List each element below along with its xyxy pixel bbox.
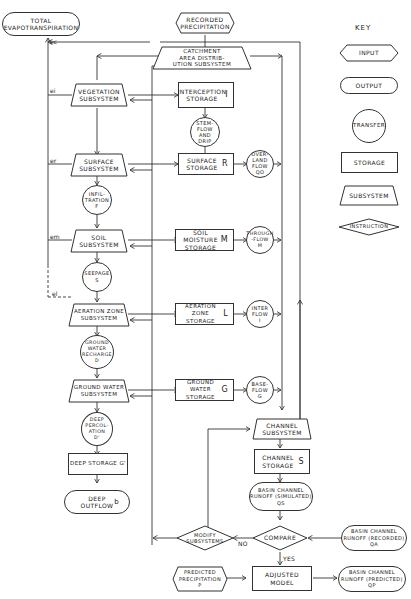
edge-label-no: NO — [238, 540, 248, 547]
transfer-interflow: INTER FLOW i — [246, 300, 274, 328]
input-recorded-precipitation: RECORDED PRECIPITATION — [175, 12, 235, 34]
edge-label-yes: YES — [283, 555, 295, 562]
transfer-baseflow: BASE- FLOW g — [246, 376, 274, 404]
output-deep-outflow: DEEP OUTFLOW b — [64, 490, 130, 514]
storage-surface: SURFACE STORAGE R — [178, 153, 234, 175]
output-total-evapotranspiration: TOTAL EVAPOTRANSPIRATION — [2, 12, 80, 36]
subsystem-aeration-zone: AERATION ZONE SUBSYSTEM — [68, 303, 130, 327]
legend-title: KEY — [355, 24, 371, 32]
subsystem-channel: CHANNEL SUBSYSTEM — [252, 418, 312, 440]
output-basin-runoff-predicted: BASIN CHANNEL RUNOFF (PREDICTED) qp — [338, 566, 406, 592]
hydrological-systems-diagram: TOTAL EVAPOTRANSPIRATION ec ei er em el … — [0, 0, 411, 599]
storage-channel: CHANNEL STORAGE S — [254, 449, 310, 474]
transfer-infiltration: INFIL- TRATION f — [82, 185, 112, 215]
transfer-throughflow: THROUGH -FLOW m — [246, 226, 274, 254]
subsystem-catchment-area-distribution: CATCHMENT AREA DISTRIB- UTION SUBSYSTEM — [152, 46, 252, 70]
edge-label-el: el — [52, 290, 57, 297]
output-basin-runoff-recorded: BASIN CHANNEL RUNOFF (RECORDED) qa — [341, 525, 407, 551]
storage-ground-water: GROUND WATER STORAGE G — [175, 379, 234, 401]
storage-deep: DEEP STORAGE G' — [68, 453, 128, 475]
legend-output: OUTPUT — [340, 77, 398, 94]
instruction-modify-subsystems: MODIFY SUBSYSTEMS — [176, 525, 234, 551]
transfer-stemflow-and-drip: STEM- FLOW AND DRIP — [190, 117, 220, 147]
subsystem-soil: SOIL SUBSYSTEM — [70, 229, 128, 253]
transfer-seepage: SEEPAGE s — [82, 262, 112, 292]
transfer-ground-water-recharge: GROUND WATER RECHARGE d — [80, 335, 114, 369]
subsystem-surface: SURFACE SUBSYSTEM — [70, 153, 128, 177]
instruction-compare: COMPARE — [252, 525, 308, 551]
edge-label-em: em — [50, 233, 60, 240]
legend-instruction: INSTRUCTION — [338, 218, 400, 236]
subsystem-ground-water: GROUND WATER SUBSYSTEM — [68, 379, 130, 403]
storage-aeration-zone: AERATION ZONE STORAGE L — [175, 303, 234, 325]
storage-interception: INTERCEPTION STORAGE I — [178, 82, 234, 108]
transfer-overland-flow: OVER- LAND FLOW qo — [246, 150, 274, 178]
subsystem-vegetation: VEGETATION SUBSYSTEM — [70, 83, 128, 107]
legend-storage: STORAGE — [341, 152, 398, 173]
legend-input: INPUT — [339, 44, 399, 62]
edge-label-ei: ei — [50, 87, 55, 94]
storage-adjusted-model: ADJUSTED MODEL — [252, 566, 312, 591]
output-basin-runoff-simulated: BASIN CHANNEL RUNOFF (SIMULATED) qs — [249, 482, 313, 511]
edge-label-er: er — [50, 157, 56, 164]
input-predicted-precipitation: PREDICTED PRECIPITATION P — [172, 566, 228, 592]
legend-transfer: TRANSFER — [352, 109, 386, 143]
legend-subsystem: SUBSYSTEM — [339, 185, 399, 206]
storage-soil-moisture: SOIL MOISTURE STORAGE M — [175, 229, 234, 251]
edge-label-ec: ec — [50, 38, 57, 45]
transfer-deep-percolation: DEEP PERCOL- ATION d' — [81, 412, 113, 446]
